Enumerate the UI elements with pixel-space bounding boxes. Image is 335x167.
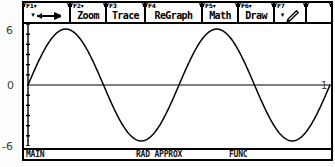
toolbar-button-f6-draw[interactable]: F6▾ Draw	[239, 3, 275, 22]
sine-wave-plot	[24, 24, 331, 146]
fkey-label-f5: F5▾	[205, 3, 215, 9]
toolbar-label-draw: Draw	[245, 10, 267, 21]
toolbar-label-zoom: Zoom	[77, 10, 99, 21]
toolbar-button-f1-tools[interactable]: F1▾ ▾	[24, 3, 71, 22]
fkey-label-f1: F1▾	[26, 3, 36, 9]
chevron-down-icon: ▾	[281, 12, 285, 19]
toolbar-button-f7-pen[interactable]: F7 ▾	[275, 3, 307, 22]
status-angle-mode: RAD APPROX	[136, 150, 182, 159]
fkey-label-f2: F2▾	[73, 3, 83, 9]
toolbar-button-f3-trace[interactable]: F3 Trace	[107, 3, 146, 22]
toolbar-label-trace: Trace	[112, 10, 139, 21]
toolbar-button-blank	[307, 3, 331, 22]
calculator-graph-screen: F1▾ ▾ F2▾ Zoom F3 Trace	[0, 0, 335, 167]
f7-icon-row: ▾	[281, 10, 300, 21]
x-axis-right-label: 1	[321, 80, 327, 91]
fkey-label-f6: F6▾	[241, 3, 251, 9]
chevron-down-icon: ▾	[31, 12, 35, 19]
status-graph-mode: FUNC	[229, 150, 247, 159]
y-axis-min-label: -6	[2, 141, 13, 152]
fkey-label-f4: F4	[148, 3, 156, 9]
toolbar: F1▾ ▾ F2▾ Zoom F3 Trace	[24, 3, 331, 24]
toolbar-button-f2-zoom[interactable]: F2▾ Zoom	[71, 3, 107, 22]
y-axis-max-label: 6	[6, 25, 13, 36]
tools-pointer-icon	[36, 11, 62, 21]
f1-icon-row: ▾	[31, 10, 62, 21]
y-axis-zero-label: 0	[7, 80, 14, 91]
fkey-label-f3: F3	[109, 3, 117, 9]
toolbar-label-regraph: ReGraph	[155, 10, 193, 21]
status-folder: MAIN	[26, 150, 44, 159]
fkey-label-f7: F7	[277, 3, 285, 9]
graph-plot-area[interactable]	[24, 24, 331, 146]
pencil-icon	[285, 10, 299, 22]
toolbar-label-math: Math	[209, 10, 231, 21]
toolbar-button-f4-regraph[interactable]: F4 ReGraph	[146, 3, 203, 22]
status-bar: MAIN RAD APPROX FUNC	[24, 148, 331, 159]
toolbar-button-f5-math[interactable]: F5▾ Math	[203, 3, 239, 22]
